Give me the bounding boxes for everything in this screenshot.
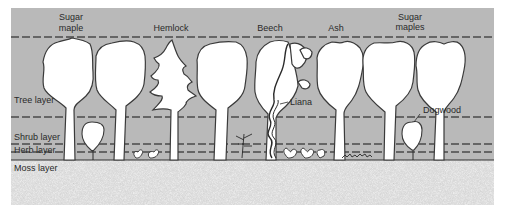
species-label-ash: Ash	[328, 23, 344, 33]
species-label-sugar-maples: Sugar	[398, 12, 422, 22]
species-label-sugar-maple: maple	[59, 23, 84, 33]
layer-label-shrub: Shrub layer	[14, 132, 60, 142]
species-label-sugar-maple: Sugar	[59, 12, 83, 22]
ground-texture	[11, 160, 494, 205]
species-label-hemlock: Hemlock	[153, 23, 189, 33]
callout-liana: Liana	[290, 97, 312, 107]
species-label-sugar-maples: maples	[395, 22, 425, 32]
callout-dogwood: Dogwood	[423, 105, 461, 115]
layer-label-moss: Moss layer	[14, 163, 58, 173]
forest-stratification-diagram: Sugar maple Hemlock Beech Ash Sugar mapl…	[0, 0, 505, 216]
layer-label-tree: Tree layer	[14, 95, 54, 105]
layer-label-herb: Herb layer	[14, 145, 56, 155]
species-label-beech: Beech	[257, 23, 283, 33]
